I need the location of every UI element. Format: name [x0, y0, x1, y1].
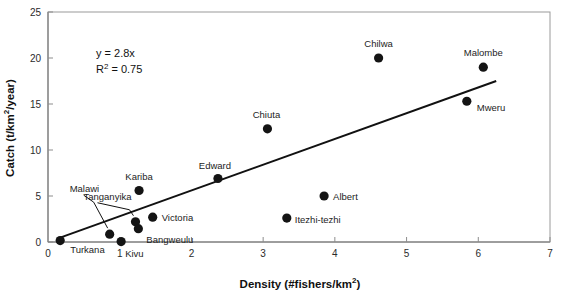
x-tick-label: 3: [260, 248, 266, 259]
y-axis-title-main: Catch (t/km: [4, 114, 16, 177]
y-tick-label: 5: [35, 191, 41, 202]
r-squared-tail: = 0.75: [108, 63, 142, 75]
data-point-marker: [282, 213, 291, 222]
scatter-chart: 01234567 0510152025 TurkanaMalawiKivuTan…: [0, 0, 561, 294]
chart-canvas: 01234567 0510152025 TurkanaMalawiKivuTan…: [0, 0, 561, 294]
y-tick-label: 0: [35, 237, 41, 248]
x-axis-title: Density (#fishers/km2): [240, 276, 361, 290]
y-axis-title: Catch (t/km2/year): [2, 79, 16, 177]
r-squared-main: R: [96, 63, 104, 75]
x-tick-label: 0: [45, 248, 51, 259]
x-tick-label: 4: [332, 248, 338, 259]
y-tick-label: 25: [30, 7, 42, 18]
data-point-label: Turkana: [70, 244, 105, 255]
y-tick-label: 15: [30, 99, 42, 110]
x-tick-label: 7: [547, 248, 553, 259]
data-point-label: Kivu: [125, 248, 143, 259]
data-point-label: Mweru: [477, 102, 506, 113]
data-point-label: Victoria: [162, 212, 194, 223]
y-tick-label: 10: [30, 145, 42, 156]
data-point-marker: [134, 224, 143, 233]
data-point-marker: [56, 236, 65, 245]
data-point-marker: [105, 230, 114, 239]
data-point-label: Chiuta: [253, 109, 281, 120]
data-point-marker: [213, 174, 222, 183]
data-point-label: Malombe: [464, 47, 503, 58]
data-point-marker: [462, 97, 471, 106]
r-squared-annotation: R2 = 0.75: [96, 62, 142, 75]
x-tick-label: 2: [189, 248, 195, 259]
data-point-label: Chilwa: [364, 38, 393, 49]
data-point-marker: [374, 53, 383, 62]
x-tick-label: 1: [117, 248, 123, 259]
data-point-marker: [148, 213, 157, 222]
data-point-label: Itezhi-tezhi: [295, 214, 341, 225]
data-point-label: Edward: [199, 160, 231, 171]
data-point-label: Bangweulu: [146, 234, 193, 245]
data-point-marker: [263, 124, 272, 133]
data-point-label: Albert: [333, 191, 358, 202]
equation-annotation: y = 2.8x: [96, 47, 135, 59]
y-tick-label: 20: [30, 53, 42, 64]
x-tick-label: 5: [404, 248, 410, 259]
data-point-label: Tanganyika: [83, 191, 132, 202]
x-axis-title-tail: ): [357, 278, 361, 290]
data-point-marker: [134, 186, 143, 195]
y-axis-title-tail: /year): [4, 79, 16, 110]
data-point-label: Kariba: [125, 171, 153, 182]
x-tick-label: 6: [476, 248, 482, 259]
x-axis-title-main: Density (#fishers/km: [240, 278, 353, 290]
data-point-marker: [117, 237, 126, 246]
data-point-marker: [320, 191, 329, 200]
data-point-marker: [479, 63, 488, 72]
